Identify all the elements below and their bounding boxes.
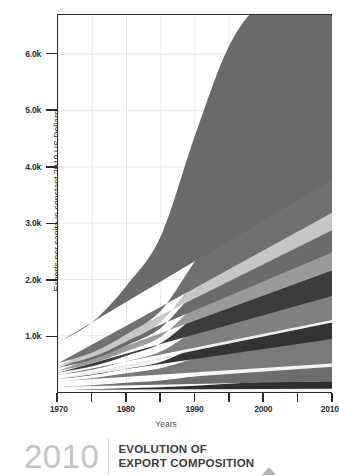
x-tick-label: 1990 xyxy=(185,404,203,414)
x-tick-label: 1970 xyxy=(50,404,68,414)
stacked-area-chart: Exports per capita in constant 2010 US D… xyxy=(0,0,332,412)
x-tick-mark xyxy=(194,393,196,402)
y-tick-label: 3.0k xyxy=(25,218,41,228)
x-tick-mark xyxy=(297,393,299,402)
footer-title-line-1: EVOLUTION OF xyxy=(118,443,254,456)
y-tick-mark xyxy=(46,166,57,168)
x-tick-mark xyxy=(91,393,93,402)
y-tick-mark xyxy=(46,223,57,225)
x-tick-label: 1980 xyxy=(117,404,135,414)
plot-svg xyxy=(58,15,332,392)
footer-title-line-2: EXPORT COMPOSITION xyxy=(118,457,254,470)
y-tick-label: 6.0k xyxy=(25,49,41,59)
y-tick-mark xyxy=(46,279,57,281)
x-tick-mark xyxy=(228,393,230,402)
footer-banner: 2010 EVOLUTION OF EXPORT COMPOSITION xyxy=(0,437,332,476)
x-tick-mark xyxy=(56,393,58,402)
y-tick-label: 4.0k xyxy=(25,162,41,172)
y-tick-mark xyxy=(46,109,57,111)
footer-year: 2010 xyxy=(24,440,108,473)
y-tick-mark xyxy=(46,336,57,338)
x-axis-title: Years xyxy=(0,419,332,429)
x-tick-mark xyxy=(125,393,127,402)
y-tick-label: 1.0k xyxy=(25,331,41,341)
x-tick-label: 2010 xyxy=(321,404,339,414)
plot-area xyxy=(57,14,332,393)
footer-title-group: EVOLUTION OF EXPORT COMPOSITION xyxy=(109,443,254,470)
x-tick-mark xyxy=(159,393,161,402)
y-tick-label: 2.0k xyxy=(25,275,41,285)
y-tick-mark xyxy=(46,53,57,55)
triangle-up-icon xyxy=(262,467,276,475)
x-tick-mark xyxy=(331,393,333,402)
x-tick-label: 2000 xyxy=(254,404,272,414)
y-tick-label: 5.0k xyxy=(25,105,41,115)
x-tick-mark xyxy=(262,393,264,402)
